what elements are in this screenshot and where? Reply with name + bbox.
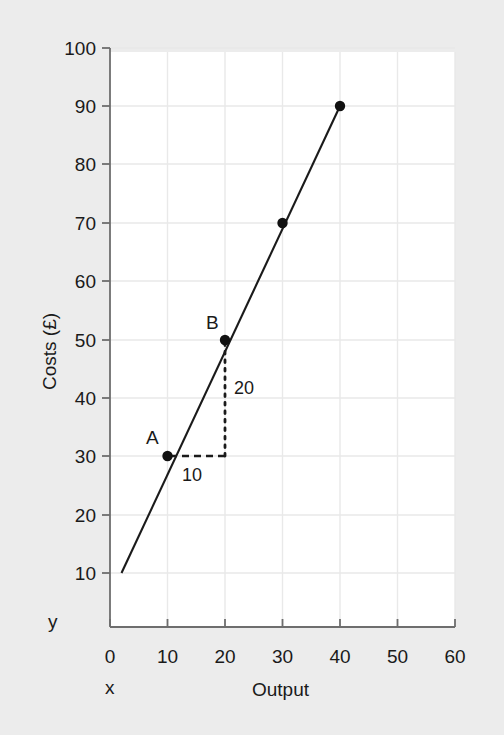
y-tick-label-40: 40 — [44, 389, 96, 408]
x-axis-variable-name: x — [105, 678, 115, 697]
data-point-20-50 — [220, 335, 230, 345]
x-tick-label-50: 50 — [373, 647, 423, 666]
y-axis-title: Costs (£) — [40, 313, 59, 390]
point-a-label: A — [146, 428, 159, 447]
y-tick-label-100: 100 — [44, 39, 96, 58]
chart-figure: 100 90 80 70 60 50 40 30 20 10 0 10 20 3… — [0, 0, 504, 735]
x-tick-label-0: 0 — [85, 647, 135, 666]
y-axis — [102, 48, 110, 626]
data-point-10-30 — [162, 451, 172, 461]
x-tick-label-10: 10 — [143, 647, 193, 666]
x-tick-label-60: 60 — [430, 647, 480, 666]
y-axis-variable-name: y — [48, 612, 58, 631]
data-point-30-70 — [277, 218, 287, 228]
y-tick-label-10: 10 — [44, 564, 96, 583]
rise-value-label: 20 — [234, 379, 254, 397]
y-tick-label-30: 30 — [44, 447, 96, 466]
y-tick-label-80: 80 — [44, 155, 96, 174]
run-value-label: 10 — [182, 466, 202, 484]
x-tick-label-40: 40 — [315, 647, 365, 666]
data-point-40-90 — [335, 101, 345, 111]
x-axis-title: Output — [252, 680, 309, 699]
point-b-label: B — [206, 313, 219, 332]
vertical-gridlines — [168, 52, 456, 626]
x-tick-label-20: 20 — [200, 647, 250, 666]
y-tick-label-20: 20 — [44, 506, 96, 525]
x-tick-label-30: 30 — [258, 647, 308, 666]
y-tick-label-90: 90 — [44, 97, 96, 116]
y-tick-label-70: 70 — [44, 214, 96, 233]
y-tick-label-60: 60 — [44, 272, 96, 291]
x-axis — [110, 619, 455, 627]
